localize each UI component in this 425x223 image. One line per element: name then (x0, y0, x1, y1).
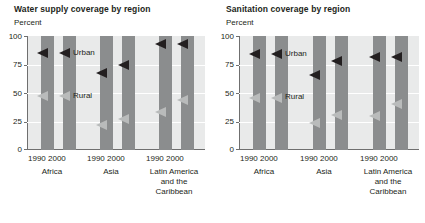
x-years-latin-america: 1990 2000 (360, 154, 398, 163)
y-tick-label-0: 0 (0, 146, 22, 154)
y-tick-label-0: 0 (212, 146, 234, 154)
y-tick-label-25: 25 (0, 118, 22, 126)
plot-area: Urban Rural (239, 36, 419, 150)
x-region-latin-america-line3: Caribbean (138, 187, 210, 197)
marker-rural-latin-america-2000 (391, 99, 402, 109)
x-region-asia: Asia (294, 167, 354, 177)
y-tick-label-75: 75 (0, 61, 22, 69)
y-tick-mark-0 (24, 149, 27, 150)
x-years-asia: 1990 2000 (87, 154, 125, 163)
x-region-africa: Africa (234, 167, 294, 177)
y-tick-mark-100 (24, 36, 27, 37)
y-tick-mark-75 (24, 65, 27, 66)
x-years-asia: 1990 2000 (300, 154, 338, 163)
y-tick-mark-0 (236, 149, 239, 150)
y-tick-label-50: 50 (212, 90, 234, 98)
marker-urban-africa-1990 (37, 48, 48, 58)
bar-latin-america-2000 (181, 36, 194, 150)
x-region-asia: Asia (81, 167, 141, 177)
marker-urban-asia-1990 (96, 68, 107, 78)
x-region-latin-america-line3: Caribbean (352, 187, 424, 197)
bar-asia-2000 (122, 36, 135, 150)
chart-panel-water-supply: Water supply coverage by region Percent … (0, 0, 212, 223)
gridline-50 (239, 93, 419, 94)
legend-label-rural: Rural (285, 93, 304, 101)
marker-urban-latin-america-1990 (369, 52, 380, 62)
y-tick-mark-50 (236, 93, 239, 94)
x-years-latin-america: 1990 2000 (146, 154, 184, 163)
y-axis-unit-label: Percent (14, 18, 42, 27)
x-region-latin-america-line2: and the (138, 177, 210, 187)
marker-urban-africa-2000 (271, 49, 282, 59)
marker-urban-africa-2000 (59, 48, 70, 58)
x-axis-baseline (239, 149, 419, 150)
plot-area: Urban Rural (27, 36, 205, 150)
bar-asia-2000 (335, 36, 348, 150)
marker-urban-latin-america-2000 (391, 52, 402, 62)
marker-rural-asia-1990 (309, 118, 320, 128)
x-region-latin-america-line1: Latin America (352, 167, 424, 177)
marker-rural-latin-america-2000 (177, 95, 188, 105)
y-tick-label-75: 75 (212, 61, 234, 69)
chart-panel-sanitation: Sanitation coverage by region Percent 10… (212, 0, 424, 223)
y-tick-label-100: 100 (212, 33, 234, 41)
marker-rural-asia-1990 (96, 120, 107, 130)
marker-urban-africa-1990 (249, 49, 260, 59)
legend-label-urban: Urban (73, 49, 95, 57)
bar-latin-america-1990 (159, 36, 172, 150)
gridline-75 (239, 65, 419, 66)
x-region-latin-america-line1: Latin America (138, 167, 210, 177)
y-axis-unit-label: Percent (226, 18, 254, 27)
y-tick-mark-25 (24, 122, 27, 123)
legend-label-urban: Urban (285, 50, 307, 58)
bar-asia-1990 (313, 36, 326, 150)
marker-urban-asia-2000 (331, 56, 342, 66)
marker-urban-latin-america-1990 (155, 39, 166, 49)
x-years-africa: 1990 2000 (240, 154, 278, 163)
y-tick-mark-75 (236, 65, 239, 66)
y-tick-mark-100 (236, 36, 239, 37)
marker-rural-africa-2000 (59, 91, 70, 101)
marker-urban-latin-america-2000 (177, 39, 188, 49)
chart-page: Water supply coverage by region Percent … (0, 0, 425, 223)
marker-rural-africa-2000 (271, 93, 282, 103)
gridline-25 (239, 122, 419, 123)
marker-rural-africa-1990 (37, 91, 48, 101)
chart-title: Water supply coverage by region (14, 4, 150, 14)
y-tick-label-50: 50 (0, 90, 22, 98)
legend-label-rural: Rural (73, 92, 92, 100)
y-tick-label-100: 100 (0, 33, 22, 41)
x-region-africa: Africa (22, 167, 82, 177)
marker-rural-asia-2000 (118, 114, 129, 124)
marker-rural-latin-america-1990 (369, 111, 380, 121)
bar-asia-1990 (100, 36, 113, 150)
marker-rural-asia-2000 (331, 110, 342, 120)
marker-rural-latin-america-1990 (155, 107, 166, 117)
chart-title: Sanitation coverage by region (226, 4, 350, 14)
marker-rural-africa-1990 (249, 93, 260, 103)
y-tick-mark-25 (236, 122, 239, 123)
x-region-latin-america-line2: and the (352, 177, 424, 187)
y-tick-label-25: 25 (212, 118, 234, 126)
marker-urban-asia-2000 (118, 60, 129, 70)
marker-urban-asia-1990 (309, 70, 320, 80)
x-years-africa: 1990 2000 (28, 154, 66, 163)
y-tick-mark-50 (24, 93, 27, 94)
